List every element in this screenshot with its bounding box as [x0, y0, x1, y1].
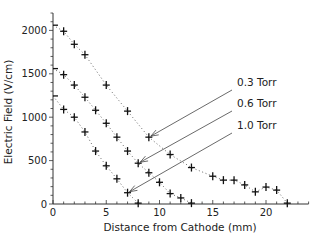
x-tick-label: 0	[50, 207, 56, 218]
annotations: 0.3 Torr0.6 Torr1.0 Torr	[130, 76, 278, 192]
x-tick-label: 20	[260, 207, 273, 218]
arrow-line	[130, 133, 232, 192]
x-tick-label: 15	[206, 207, 219, 218]
dotted-trend-line	[53, 25, 287, 203]
x-tick-label: 5	[103, 207, 109, 218]
electric-field-chart: 051015200500100015002000 0.3 Torr0.6 Tor…	[0, 0, 321, 238]
x-tick-label: 10	[153, 207, 166, 218]
arrowhead-icon	[130, 186, 138, 192]
series-0-3-torr	[53, 25, 291, 207]
series-0-6-torr	[53, 69, 195, 208]
annotation-label: 1.0 Torr	[237, 119, 277, 131]
arrow-line	[140, 111, 232, 162]
y-tick-label: 2000	[22, 25, 47, 36]
y-tick-label: 0	[41, 199, 47, 210]
y-axis-label: Electric Field (V/cm)	[2, 60, 14, 165]
arrow-line	[151, 90, 232, 136]
data-series	[53, 25, 291, 207]
y-tick-label: 500	[28, 155, 47, 166]
arrowhead-icon	[151, 130, 159, 136]
y-tick-label: 1500	[22, 68, 47, 79]
y-tick-label: 1000	[22, 112, 47, 123]
annotation-label: 0.6 Torr	[237, 97, 277, 109]
arrowhead-icon	[140, 156, 148, 162]
x-axis-label: Distance from Cathode (mm)	[103, 221, 256, 233]
annotation-label: 0.3 Torr	[237, 76, 277, 88]
